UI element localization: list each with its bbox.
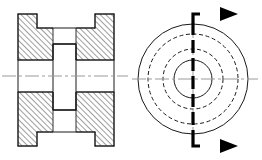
section-material-upper (18, 14, 114, 60)
drawing-svg (0, 0, 262, 160)
arrow-head-bottom (220, 139, 238, 153)
sectional-front-view (2, 14, 128, 146)
cutting-plane-arrow-top (193, 7, 238, 22)
arrow-head-top (220, 7, 238, 21)
technical-drawing-canvas (0, 0, 262, 160)
end-view (132, 7, 258, 153)
section-material-lower (18, 92, 114, 146)
cutting-plane-arrow-bottom (193, 138, 238, 153)
